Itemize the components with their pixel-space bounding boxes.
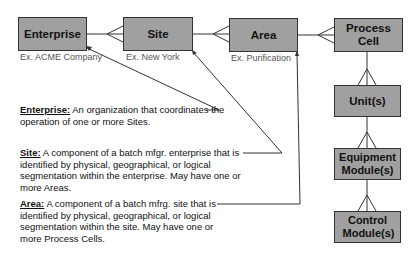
entity-site: Site bbox=[123, 17, 193, 51]
entity-process-cell: Process Cell bbox=[334, 18, 403, 52]
entity-label: Site bbox=[147, 28, 168, 41]
entity-label: Enterprise bbox=[24, 28, 81, 41]
entity-label: Control Module(s) bbox=[343, 214, 393, 240]
definition-term: Area: bbox=[20, 198, 44, 209]
example-site: Ex. New York bbox=[126, 52, 180, 62]
entity-units: Unit(s) bbox=[334, 85, 401, 117]
definition-term: Site: bbox=[20, 147, 41, 158]
definition-term: Enterprise: bbox=[20, 104, 70, 115]
entity-equipment-modules: Equipment Module(s) bbox=[334, 148, 401, 180]
entity-label: Unit(s) bbox=[349, 95, 385, 108]
entity-enterprise: Enterprise bbox=[18, 17, 87, 51]
definition-area: Area: A component of a batch mfrg. site … bbox=[20, 198, 220, 244]
entity-label: Process Cell bbox=[341, 22, 396, 48]
example-area: Ex. Purification bbox=[231, 53, 291, 63]
entity-label: Area bbox=[251, 29, 277, 42]
example-enterprise: Ex. ACME Company bbox=[20, 52, 102, 62]
entity-area: Area bbox=[229, 18, 298, 52]
entity-label: Equipment Module(s) bbox=[337, 151, 399, 177]
definition-text: A component of a batch mfgr. enterprise … bbox=[20, 147, 241, 193]
definition-site: Site: A component of a batch mfgr. enter… bbox=[20, 147, 245, 193]
definition-enterprise: Enterprise: An organization that coordin… bbox=[20, 104, 230, 127]
entity-control-modules: Control Module(s) bbox=[334, 211, 401, 243]
definition-text: A component of a batch mfrg. site that i… bbox=[20, 198, 216, 244]
